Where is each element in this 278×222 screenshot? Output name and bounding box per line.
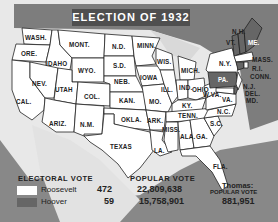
hoover-electoral: 59 bbox=[104, 196, 114, 206]
hoover-popular: 15,758,901 bbox=[139, 196, 184, 206]
label-idaho: IDAHO bbox=[46, 60, 67, 67]
election-map-figure: WASH. ORE. CAL. IDAHO NEV. MONT. WYO. UT… bbox=[0, 0, 278, 222]
roosevelt-electoral: 472 bbox=[97, 184, 112, 194]
label-nc: N.C. bbox=[217, 108, 230, 115]
map-title: ELECTION OF 1932 bbox=[72, 9, 190, 26]
hoover-swatch bbox=[17, 198, 37, 207]
label-cal: CAL. bbox=[16, 98, 32, 105]
thomas-popular-vote-label: POPULAR VOTE bbox=[210, 189, 257, 195]
hoover-name: Hoover bbox=[41, 197, 67, 206]
label-ind: IND. bbox=[179, 84, 192, 91]
label-va: VA. bbox=[222, 96, 233, 103]
label-mo: MO. bbox=[149, 98, 162, 105]
label-nj: N.J. bbox=[243, 83, 255, 90]
roosevelt-swatch bbox=[17, 186, 37, 195]
state-ri[interactable] bbox=[244, 62, 248, 68]
label-texas: TEXAS bbox=[110, 143, 132, 150]
label-sd: S.D. bbox=[113, 62, 126, 69]
label-ill: ILL. bbox=[161, 86, 173, 93]
label-wash: WASH. bbox=[25, 34, 47, 41]
label-minn: MINN. bbox=[137, 42, 156, 49]
label-ri: R.I. bbox=[252, 65, 263, 72]
label-wva: W.VA. bbox=[203, 91, 221, 98]
label-fla: FLA. bbox=[213, 163, 228, 170]
label-mich: MICH. bbox=[181, 67, 200, 74]
label-ariz: ARIZ. bbox=[49, 120, 66, 127]
label-ky: KY. bbox=[182, 102, 192, 109]
label-nm: N.M. bbox=[80, 121, 94, 128]
popular-vote-header: POPULAR VOTE bbox=[130, 174, 195, 183]
label-mont: MONT. bbox=[69, 41, 90, 48]
label-wis: WIS. bbox=[157, 58, 171, 65]
label-nev: NEV. bbox=[32, 80, 47, 87]
label-iowa: IOWA bbox=[140, 74, 158, 81]
label-nh: N.H. bbox=[232, 28, 245, 35]
label-utah: UTAH bbox=[55, 86, 73, 93]
label-ga: GA. bbox=[196, 133, 208, 140]
label-conn: CONN. bbox=[250, 73, 271, 80]
label-la: LA. bbox=[154, 147, 165, 154]
label-okla: OKLA. bbox=[121, 116, 142, 123]
state-nm[interactable] bbox=[74, 104, 104, 136]
label-del: DEL. bbox=[245, 90, 260, 97]
label-kan: KAN. bbox=[119, 97, 135, 104]
label-sc: S.C. bbox=[210, 120, 223, 127]
label-md: MD. bbox=[246, 97, 258, 104]
thomas-popular: 881,951 bbox=[222, 196, 255, 206]
label-pa: PA. bbox=[218, 76, 228, 83]
label-neb: NEB. bbox=[114, 78, 130, 85]
label-wyo: WYO. bbox=[78, 67, 96, 74]
roosevelt-name: Roosevelt bbox=[41, 185, 77, 194]
label-mass: MASS. bbox=[252, 56, 273, 63]
label-ark: ARK. bbox=[147, 117, 163, 124]
label-col: COL. bbox=[84, 93, 100, 100]
label-ala: ALA. bbox=[180, 133, 196, 140]
roosevelt-popular: 22,809,638 bbox=[137, 184, 182, 194]
label-vt: VT. bbox=[226, 39, 236, 46]
electoral-vote-header: ELECTORAL VOTE bbox=[18, 174, 93, 183]
label-nd: N.D. bbox=[112, 43, 125, 50]
label-ore: ORE. bbox=[21, 50, 37, 57]
label-ny: N.Y. bbox=[219, 60, 231, 67]
label-me: ME. bbox=[248, 39, 259, 46]
label-tenn: TENN. bbox=[178, 112, 198, 119]
label-miss: MISS. bbox=[162, 126, 180, 133]
